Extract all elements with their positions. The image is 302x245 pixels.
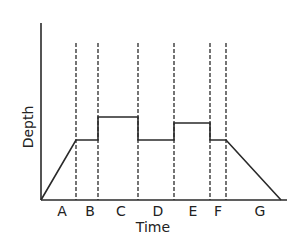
phase-label-f: F — [214, 203, 222, 219]
phase-label-g: G — [255, 203, 266, 219]
phase-label-d: D — [153, 203, 164, 219]
phase-label-e: E — [189, 203, 198, 219]
phase-label-a: A — [57, 203, 67, 219]
phase-label-c: C — [116, 203, 126, 219]
y-axis-label: Depth — [20, 106, 36, 149]
depth-profile-line — [41, 117, 281, 200]
x-axis-label: Time — [135, 219, 170, 235]
phase-label-b: B — [85, 203, 95, 219]
dive-profile-diagram: Depth A B C D E F G Time — [0, 0, 302, 245]
